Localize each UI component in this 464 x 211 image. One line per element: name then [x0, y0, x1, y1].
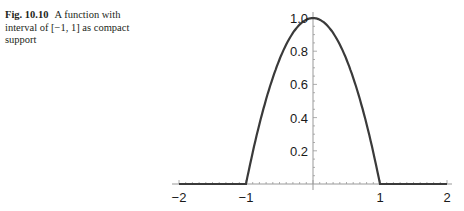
x-tick-labels: −2−112 [172, 190, 451, 205]
function-plot: −2−112 0.20.40.60.81.0 [0, 0, 464, 211]
y-tick-label: 0.2 [290, 144, 308, 159]
y-tick-label: 0.6 [290, 77, 308, 92]
x-tick-label: −2 [172, 190, 187, 205]
y-tick-label: 1.0 [290, 11, 308, 26]
x-tick-label: 1 [376, 190, 383, 205]
y-tick-label: 0.4 [290, 111, 308, 126]
y-tick-label: 0.8 [290, 44, 308, 59]
y-axis-ticks [313, 18, 317, 176]
x-tick-label: −1 [239, 190, 254, 205]
x-tick-label: 2 [443, 190, 450, 205]
